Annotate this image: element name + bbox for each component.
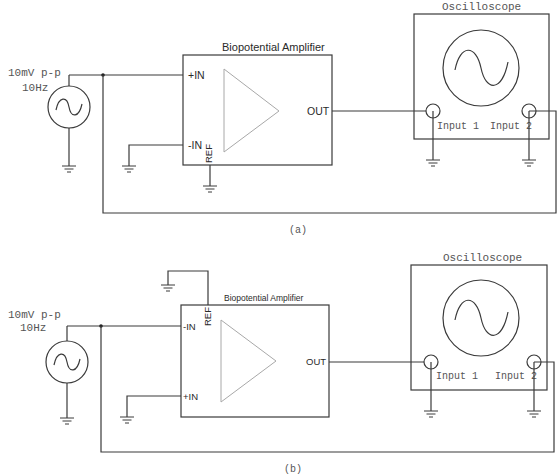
- sine-wave-icon: [56, 99, 82, 115]
- amplifier-title: Biopotential Amplifier: [222, 41, 325, 53]
- ground-icon: [161, 285, 175, 291]
- diagram-a: 10mV p-p 10Hz Biopotential Amplifier +IN…: [8, 1, 556, 236]
- input2-label: Input 2: [495, 371, 537, 382]
- biopotential-amplifier: Biopotential Amplifier +IN -IN REF OUT: [183, 41, 332, 165]
- source-frequency-label: 10Hz: [22, 82, 48, 94]
- input2-wire: [101, 326, 554, 452]
- circuit-diagrams: 10mV p-p 10Hz Biopotential Amplifier +IN…: [0, 0, 558, 476]
- biopotential-amplifier: Biopotential Amplifier -IN +IN REF OUT: [181, 293, 329, 417]
- sine-wave-icon: [455, 300, 508, 335]
- ground-icon: [527, 411, 541, 417]
- amplifier-triangle-icon: [221, 320, 276, 402]
- input1-label: Input 1: [436, 371, 478, 382]
- amplifier-title: Biopotential Amplifier: [224, 293, 304, 303]
- oscilloscope-title: Oscilloscope: [442, 1, 521, 13]
- sine-wave-icon: [455, 50, 508, 85]
- pin-out: OUT: [307, 105, 330, 117]
- ground-icon: [120, 417, 134, 423]
- pin-minus-in: -IN: [188, 139, 202, 151]
- input2-label: Input 2: [490, 121, 532, 132]
- ground-icon: [203, 186, 217, 192]
- oscilloscope-title: Oscilloscope: [443, 252, 522, 264]
- ground-icon: [122, 166, 136, 172]
- caption-b: (b): [284, 464, 302, 475]
- pin-ref: REF: [202, 307, 213, 326]
- ground-icon: [424, 411, 438, 417]
- signal-source: 10mV p-p 10Hz: [8, 67, 90, 172]
- source-amplitude-label: 10mV p-p: [8, 309, 61, 321]
- oscilloscope: Oscilloscope Input 1 Input 2: [414, 1, 549, 166]
- input1-label: Input 1: [437, 121, 479, 132]
- diagram-b: 10mV p-p 10Hz Biopotential Amplifier -IN…: [8, 252, 554, 475]
- ground-icon: [60, 418, 74, 424]
- ground-icon: [62, 166, 76, 172]
- caption-a: (a): [289, 225, 307, 236]
- pin-ref: REF: [203, 144, 214, 163]
- pin-plus-in: +IN: [183, 391, 198, 402]
- amplifier-triangle-icon: [224, 69, 279, 152]
- oscilloscope: Oscilloscope Input 1 Input 2: [411, 252, 547, 417]
- pin-out: OUT: [306, 356, 326, 367]
- pin-plus-in: +IN: [188, 69, 205, 81]
- source-frequency-label: 10Hz: [20, 322, 46, 334]
- input2-wire: [103, 75, 556, 213]
- ground-icon: [426, 160, 440, 166]
- ground-icon: [522, 160, 536, 166]
- pin-minus-in: -IN: [183, 321, 196, 332]
- sine-wave-icon: [54, 354, 80, 370]
- source-amplitude-label: 10mV p-p: [8, 67, 61, 79]
